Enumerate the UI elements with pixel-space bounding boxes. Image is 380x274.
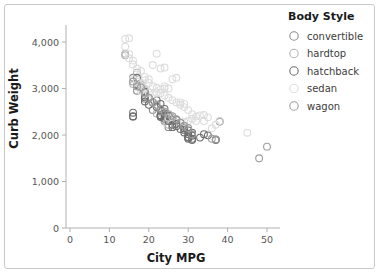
y-axis-title: Curb Weight [7, 68, 21, 149]
data-point [264, 143, 271, 150]
y-tick-label: 4,000 [32, 37, 59, 48]
data-point [161, 64, 168, 71]
legend-marker-icon [290, 84, 298, 92]
chart-figure: 01,0002,0003,0004,00001020304050City MPG… [0, 0, 380, 274]
legend-item-label: hatchback [307, 66, 359, 77]
legend-marker-icon [290, 67, 298, 75]
series-wagon [130, 78, 271, 162]
scatter-plot: 01,0002,0003,0004,00001020304050City MPG… [0, 0, 380, 274]
x-tick-label: 20 [143, 234, 155, 245]
legend-item-hatchback[interactable]: hatchback [290, 66, 359, 77]
series-sedan [122, 35, 251, 136]
y-tick-label: 1,000 [32, 176, 59, 187]
x-tick-label: 50 [261, 234, 273, 245]
data-point [149, 62, 156, 69]
legend-marker-icon [290, 102, 298, 110]
data-point [244, 129, 251, 136]
data-point [169, 76, 176, 83]
y-tick-label: 3,000 [32, 83, 59, 94]
data-point [153, 50, 160, 57]
legend-item-label: sedan [307, 83, 337, 94]
data-point [216, 118, 223, 125]
legend: Body Styleconvertiblehardtophatchbacksed… [288, 10, 363, 112]
y-tick-label: 2,000 [32, 130, 59, 141]
data-point [145, 94, 152, 101]
data-points-layer [122, 35, 271, 162]
legend-title: Body Style [288, 10, 354, 23]
y-tick-label: 0 [53, 223, 59, 234]
x-axis-title: City MPG [147, 251, 206, 265]
x-tick-label: 30 [182, 234, 194, 245]
legend-marker-icon [290, 32, 298, 40]
legend-item-label: convertible [307, 31, 363, 42]
y-axis-ticks: 01,0002,0003,0004,000 [32, 37, 66, 234]
data-point [173, 74, 180, 81]
legend-item-label: wagon [307, 101, 340, 112]
legend-item-hardtop[interactable]: hardtop [290, 48, 346, 59]
x-tick-label: 40 [222, 234, 234, 245]
x-axis-ticks: 01020304050 [67, 228, 273, 245]
legend-item-sedan[interactable]: sedan [290, 83, 337, 94]
x-tick-label: 0 [67, 234, 73, 245]
data-point [256, 155, 263, 162]
data-point [122, 43, 129, 50]
legend-item-label: hardtop [307, 48, 346, 59]
legend-marker-icon [290, 49, 298, 57]
data-point [126, 35, 133, 42]
legend-item-wagon[interactable]: wagon [290, 101, 340, 112]
data-point [149, 91, 156, 98]
legend-item-convertible[interactable]: convertible [290, 31, 363, 42]
x-tick-label: 10 [103, 234, 115, 245]
